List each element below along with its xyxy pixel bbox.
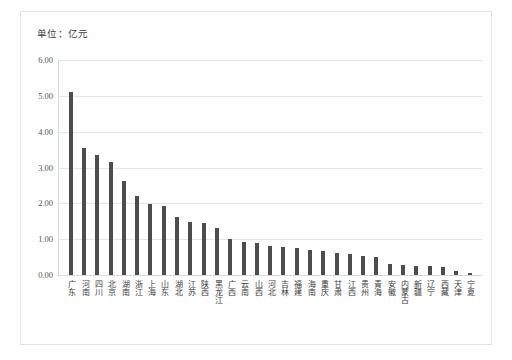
x-axis-label: 云南 (239, 280, 248, 296)
bar (175, 217, 179, 275)
bar-slot (450, 60, 463, 275)
y-axis-tick-label: 4.00 (38, 127, 53, 137)
bar-slot (144, 60, 157, 275)
bar (414, 266, 418, 275)
bar (335, 253, 339, 275)
x-axis-label-slot: 安徽 (383, 280, 396, 354)
x-axis-label: 山东 (159, 280, 168, 296)
bar-slot (197, 60, 210, 275)
bar-slot (357, 60, 370, 275)
bar-slot (277, 60, 290, 275)
x-axis-label-slot: 云南 (237, 280, 250, 354)
y-axis-tick-label: 3.00 (38, 163, 53, 173)
bar (162, 206, 166, 275)
bar-slot (303, 60, 316, 275)
bar (69, 92, 73, 275)
x-axis-label: 吉林 (279, 280, 288, 296)
bar-slot (224, 60, 237, 275)
x-axis-label: 重庆 (319, 280, 328, 296)
x-axis-label: 西藏 (439, 280, 448, 296)
bar (468, 273, 472, 275)
bar (454, 271, 458, 275)
x-axis-label-slot: 青海 (370, 280, 383, 354)
x-axis-label: 江苏 (186, 280, 195, 296)
bar (348, 254, 352, 275)
y-axis-tick-label: 5.00 (38, 91, 53, 101)
x-axis-label: 河南 (80, 280, 89, 296)
x-axis-label-slot: 湖北 (170, 280, 183, 354)
bar (295, 248, 299, 275)
bar-slot (77, 60, 90, 275)
x-axis-label-slot: 山东 (157, 280, 170, 354)
x-axis-label: 广西 (226, 280, 235, 296)
bar-slot (237, 60, 250, 275)
bar (215, 228, 219, 275)
x-axis-label-slot: 新疆 (410, 280, 423, 354)
bar (321, 251, 325, 275)
bar-slot (436, 60, 449, 275)
bar-slot (396, 60, 409, 275)
bar-slot (290, 60, 303, 275)
x-axis-label: 江西 (346, 280, 355, 296)
bar (428, 266, 432, 275)
bar (135, 196, 139, 275)
bar (255, 243, 259, 275)
x-axis-label: 宁夏 (465, 280, 474, 296)
bar (374, 257, 378, 275)
x-axis-labels: 广东河南四川北京湖南浙江上海山东湖北江苏陕西黑龙江广西云南山西河北吉林福建海南重… (58, 280, 482, 354)
x-axis-label-slot: 山西 (250, 280, 263, 354)
bar-slot (210, 60, 223, 275)
x-axis-label-slot: 陕西 (197, 280, 210, 354)
bar-slot (423, 60, 436, 275)
bar (361, 256, 365, 275)
x-axis-label-slot: 甘肃 (330, 280, 343, 354)
bar (242, 242, 246, 275)
bar-slot (104, 60, 117, 275)
bar-slot (330, 60, 343, 275)
bar-slot (463, 60, 476, 275)
x-axis-label: 内蒙古 (399, 280, 408, 304)
y-axis-tick-label: 2.00 (38, 198, 53, 208)
bar (82, 148, 86, 275)
x-axis-label-slot: 福建 (290, 280, 303, 354)
bar-slot (157, 60, 170, 275)
x-axis-label: 浙江 (133, 280, 142, 296)
x-axis-label: 安徽 (386, 280, 395, 296)
x-axis-label-slot: 四川 (91, 280, 104, 354)
x-axis-label: 福建 (292, 280, 301, 296)
x-axis-label: 北京 (106, 280, 115, 296)
x-axis-label-slot: 吉林 (277, 280, 290, 354)
x-axis-label: 湖南 (120, 280, 129, 296)
y-axis-tick-label: 0.00 (38, 270, 53, 280)
chart-frame: 单位：亿元 6.005.004.003.002.001.000.00 广东河南四… (20, 11, 492, 345)
chart-unit-title: 单位：亿元 (37, 26, 89, 40)
x-axis-label-slot: 西藏 (436, 280, 449, 354)
x-axis-label: 河北 (266, 280, 275, 296)
y-axis-tick-label: 1.00 (38, 234, 53, 244)
bar-slot (370, 60, 383, 275)
x-axis-label-slot: 广西 (224, 280, 237, 354)
x-axis-label-slot: 江苏 (184, 280, 197, 354)
x-axis-label-slot: 湖南 (117, 280, 130, 354)
x-axis-label-slot: 海南 (303, 280, 316, 354)
x-axis-label-slot: 北京 (104, 280, 117, 354)
bar-slot (317, 60, 330, 275)
x-axis-label: 广东 (66, 280, 75, 296)
bar (388, 264, 392, 275)
bar (109, 162, 113, 275)
bar (228, 239, 232, 275)
bar (268, 246, 272, 275)
x-axis-label-slot: 内蒙古 (396, 280, 409, 354)
bar-series (58, 60, 482, 275)
bar (441, 267, 445, 275)
bar-slot (383, 60, 396, 275)
x-axis-label-slot: 江西 (343, 280, 356, 354)
bar (202, 223, 206, 275)
x-axis-label-slot: 上海 (144, 280, 157, 354)
x-axis-label: 贵州 (359, 280, 368, 296)
bar (95, 155, 99, 275)
bar (281, 247, 285, 275)
bar-slot (343, 60, 356, 275)
bar-slot (410, 60, 423, 275)
x-axis-label: 甘肃 (332, 280, 341, 296)
